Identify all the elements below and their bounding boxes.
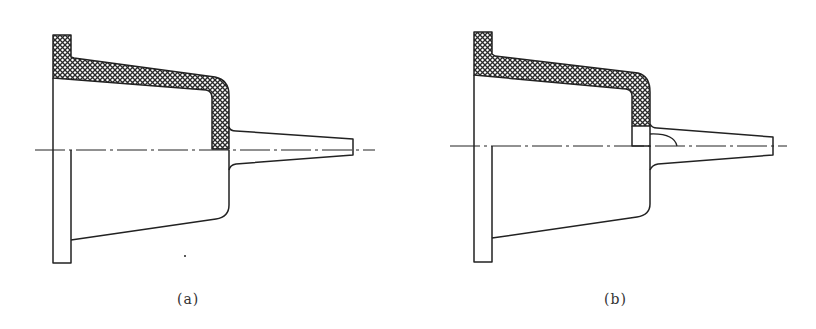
hatched-wall-section-a (53, 35, 229, 149)
fillet-arc-b (650, 134, 677, 146)
technical-drawing (0, 0, 816, 329)
nozzle-a (229, 127, 353, 170)
panel-a-drawing (35, 35, 375, 263)
caption-a: (a) (177, 291, 199, 307)
caption-b: (b) (604, 291, 627, 307)
hatched-wall-section-b (474, 32, 650, 126)
flange-b (474, 75, 492, 262)
flange-a (53, 78, 71, 263)
panel-b-drawing (450, 32, 787, 262)
insert-block-b (632, 126, 650, 146)
lower-body-b (492, 146, 650, 238)
lower-body-a (71, 150, 229, 240)
nozzle-b (650, 124, 773, 170)
